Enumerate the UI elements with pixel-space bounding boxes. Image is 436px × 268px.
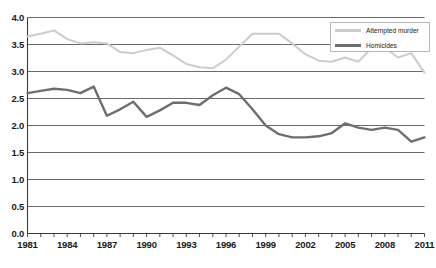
x-axis-tick-label: 2005: [328, 239, 362, 250]
x-axis-tick-label: 1984: [50, 239, 84, 250]
x-axis-tick-label: 2002: [288, 239, 322, 250]
series-line-homicides: [28, 87, 425, 142]
x-axis-tick-label: 1990: [130, 239, 164, 250]
x-axis-tick-label: 2008: [368, 239, 402, 250]
y-axis-tick-label: 0.0: [0, 228, 24, 239]
x-axis-tick-label: 1981: [11, 239, 45, 250]
x-axis-tick-label: 1987: [90, 239, 124, 250]
y-axis-tick-label: 1.0: [0, 174, 24, 185]
x-axis-tick-label: 1999: [249, 239, 283, 250]
x-axis-tick-label: 2011: [408, 239, 436, 250]
y-axis-tick-label: 3.0: [0, 66, 24, 77]
x-axis-tick-label: 1996: [209, 239, 243, 250]
y-axis-tick-label: 2.5: [0, 93, 24, 104]
chart-legend: Attempted murder Homicides: [330, 22, 430, 52]
chart-container: 0.00.51.01.52.02.53.03.54.0 198119841987…: [0, 0, 436, 268]
legend-swatch-attempted-murder: [335, 29, 361, 32]
y-axis-tick-label: 1.5: [0, 147, 24, 158]
legend-swatch-homicides: [335, 44, 361, 47]
x-axis-tick-label: 1993: [169, 239, 203, 250]
legend-item-homicides: Homicides: [331, 38, 429, 53]
y-axis-tick-label: 3.5: [0, 39, 24, 50]
legend-label-homicides: Homicides: [366, 42, 397, 49]
legend-label-attempted-murder: Attempted murder: [366, 27, 419, 34]
y-axis-tick-label: 2.0: [0, 120, 24, 131]
y-axis-tick-label: 4.0: [0, 12, 24, 23]
y-axis-tick-label: 0.5: [0, 201, 24, 212]
legend-item-attempted-murder: Attempted murder: [331, 23, 429, 38]
